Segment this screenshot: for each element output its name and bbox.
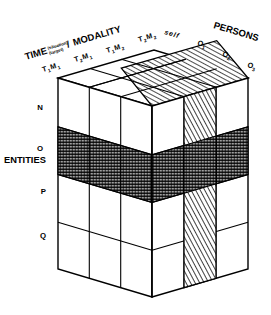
tick-t2m2: T 2 M 2: [137, 30, 157, 45]
tick-self-label: self: [164, 28, 181, 39]
persons-label: PERSONS: [212, 19, 260, 43]
tick-t1m1-m-sub: 1: [57, 65, 61, 71]
tick-t2m2-m-sub: 2: [153, 35, 157, 41]
tick-t1m1-m: M: [49, 61, 57, 71]
tick-t2m1-m-sub: 1: [89, 55, 93, 61]
tick-o3-sub: 3: [251, 67, 255, 73]
slab-band-intersection: [184, 136, 216, 193]
tick-o3: O 3: [246, 60, 257, 72]
tick-t1m2-m-sub: 2: [121, 46, 125, 52]
tick-t1m2: T 1 M 2: [105, 41, 125, 56]
tick-self: self: [164, 28, 181, 39]
cube-diagram: TIME (situation) (target) / MODALITY T 1…: [0, 0, 271, 315]
time-label-separator: /: [65, 38, 71, 49]
entities-axis-label: ENTITIES: [4, 155, 46, 165]
figure-root: TIME (situation) (target) / MODALITY T 1…: [0, 0, 271, 315]
entities-tick-o: O: [37, 144, 43, 153]
persons-axis-label: PERSONS: [212, 19, 260, 43]
tick-t2m1: T 2 M 1: [73, 50, 93, 65]
entities-tick-p: P: [41, 187, 46, 196]
right-face: [152, 78, 248, 297]
time-label-main: TIME: [23, 45, 48, 62]
tick-t1m2-m: M: [113, 42, 121, 52]
tick-t2m2-m: M: [145, 31, 153, 41]
entities-tick-n: N: [37, 103, 43, 112]
tick-t2m1-m: M: [81, 51, 89, 61]
tick-t1m1: T 1 M 1: [41, 60, 61, 75]
left-face: [58, 78, 152, 297]
entities-tick-q: Q: [40, 231, 46, 240]
